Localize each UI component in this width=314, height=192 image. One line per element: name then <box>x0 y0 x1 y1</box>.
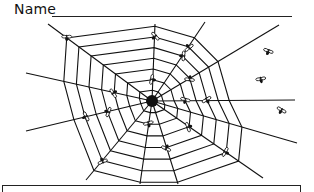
fly-icon <box>103 106 112 118</box>
web-spoke <box>152 22 205 101</box>
fly-icon <box>221 147 231 159</box>
fly-icon <box>275 106 287 117</box>
web-spoke <box>152 101 263 178</box>
web-center-spider-icon <box>146 95 158 107</box>
fly-icon <box>256 76 267 84</box>
web-spoke <box>152 101 297 143</box>
fly-icon <box>262 47 274 56</box>
answer-box[interactable] <box>2 185 301 192</box>
fly-icon <box>96 156 108 166</box>
fly-icon <box>80 111 90 123</box>
web-spoke <box>152 101 178 184</box>
spider-web-illustration <box>0 0 314 192</box>
fly-icon <box>161 143 173 153</box>
